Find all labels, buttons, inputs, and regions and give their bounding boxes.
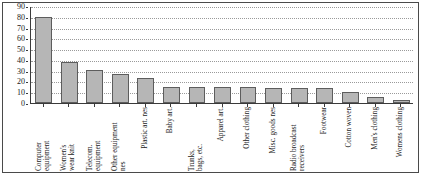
x-axis-label: Men's clothing <box>362 107 388 173</box>
x-axis-label: Other equipmentnes <box>107 107 133 173</box>
x-axis-label: Women'swear knit <box>56 107 82 173</box>
x-axis-label: Baby art. <box>158 107 184 173</box>
bar <box>86 70 103 103</box>
y-tick-label: 70 <box>17 25 25 33</box>
x-axis-label-text: Misc. goods nes <box>269 107 277 154</box>
x-axis-label-text: Computerequipment <box>35 107 51 171</box>
bar <box>61 62 78 103</box>
y-tick-label: 90 <box>17 3 25 11</box>
x-axis-label-text: Women'swear knit <box>60 107 76 171</box>
x-axis-label-text: Trunks,bags, etc. <box>188 107 204 171</box>
bar <box>265 88 282 103</box>
y-tick-mark <box>26 93 28 94</box>
x-axis-label: Misc. goods nes <box>260 107 286 173</box>
y-tick-mark <box>26 61 28 62</box>
bar <box>214 87 231 103</box>
bar <box>35 17 52 103</box>
x-axis-label: Footwear <box>311 107 337 173</box>
bar <box>240 87 257 103</box>
y-tick-mark <box>26 104 28 105</box>
x-axis-label-text: Baby art. <box>166 107 174 133</box>
y-tick-label: 80 <box>17 14 25 22</box>
y-tick-label: 30 <box>17 68 25 76</box>
plot-area <box>30 7 413 104</box>
x-axis-label-text: Other equipmentnes <box>111 107 127 171</box>
bar <box>367 97 384 103</box>
x-axis-label-text: Men's clothing <box>371 107 379 150</box>
x-axis-label-text: Womens clothing <box>396 107 404 157</box>
x-axis-label-text: Plastic art. nes <box>141 107 149 149</box>
x-axis-label-text: Cotton woven <box>345 107 353 148</box>
x-axis-label: Computerequipment <box>30 107 56 173</box>
bar-series <box>31 7 413 103</box>
y-tick-label: 40 <box>17 57 25 65</box>
x-axis-label-text: Telecom.equipment <box>86 107 102 171</box>
x-axis-label: Telecom.equipment <box>81 107 107 173</box>
x-axis-label-text: Footwear <box>320 107 328 134</box>
x-axis-label: Womens clothing <box>387 107 413 173</box>
bar <box>163 87 180 103</box>
bar <box>189 87 206 103</box>
x-axis-label-text: Other clothing <box>243 107 251 149</box>
x-axis-label-text: Radio broadcastreceivers <box>290 107 306 171</box>
bar <box>112 74 129 103</box>
x-axis-label: Plastic art. nes <box>132 107 158 173</box>
bar <box>291 88 308 103</box>
y-tick-label: 60 <box>17 35 25 43</box>
y-tick-mark <box>26 39 28 40</box>
y-tick-mark <box>26 7 28 8</box>
y-tick-mark <box>26 72 28 73</box>
y-axis: 0102030405060708090 <box>0 7 28 104</box>
y-tick-label: 50 <box>17 46 25 54</box>
bar-chart-figure: 0102030405060708090 ComputerequipmentWom… <box>0 0 421 176</box>
x-axis-label: Other clothing <box>234 107 260 173</box>
bar <box>342 92 359 103</box>
x-axis-label: Radio broadcastreceivers <box>285 107 311 173</box>
bar <box>137 78 154 103</box>
y-tick-mark <box>26 29 28 30</box>
y-tick-mark <box>26 82 28 83</box>
y-tick-mark <box>26 18 28 19</box>
y-tick-label: 20 <box>17 78 25 86</box>
y-tick-label: 0 <box>21 100 25 108</box>
y-tick-label: 10 <box>17 89 25 97</box>
x-axis-label-text: Apparel art. <box>217 107 225 141</box>
bar <box>393 100 410 103</box>
x-axis-label: Cotton woven <box>336 107 362 173</box>
x-axis-label: Apparel art. <box>209 107 235 173</box>
x-axis-labels: ComputerequipmentWomen'swear knitTelecom… <box>30 107 413 173</box>
bar <box>316 88 333 103</box>
y-tick-mark <box>26 50 28 51</box>
x-axis-label: Trunks,bags, etc. <box>183 107 209 173</box>
